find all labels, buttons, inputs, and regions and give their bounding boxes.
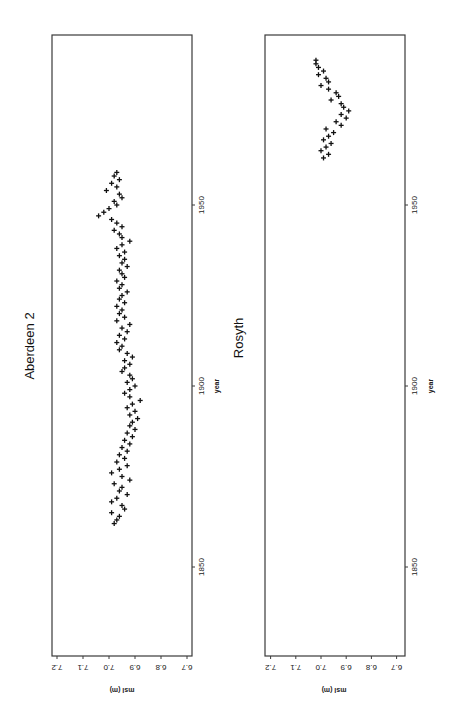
plus-marker-icon <box>117 253 122 258</box>
plus-marker-icon <box>127 394 132 399</box>
msl-tick-label: 7.0 <box>315 663 327 672</box>
plus-marker-icon <box>120 282 125 287</box>
plus-marker-icon <box>101 210 106 215</box>
plus-marker-icon <box>122 438 127 443</box>
plus-marker-icon <box>339 112 344 117</box>
year-tick-label: 1900 <box>410 377 419 395</box>
plus-marker-icon <box>120 260 125 265</box>
plus-marker-icon <box>114 340 119 345</box>
plus-marker-icon <box>117 192 122 197</box>
plus-marker-icon <box>96 213 101 218</box>
plus-marker-icon <box>109 181 114 186</box>
aberdeen-year-axis: 185019001950 <box>192 196 206 576</box>
plus-marker-icon <box>138 398 143 403</box>
plus-marker-icon <box>114 460 119 465</box>
plus-marker-icon <box>112 228 117 233</box>
aberdeen-x-axis-label: year <box>213 379 221 394</box>
chart-canvas: 185019001950 7.27.17.06.96.86.7 year msl… <box>0 0 464 722</box>
msl-tick-label: 7.1 <box>77 663 89 672</box>
plus-marker-icon <box>117 286 122 291</box>
plus-marker-icon <box>114 203 119 208</box>
plus-marker-icon <box>114 246 119 251</box>
aberdeen-y-axis-label: msl (m) <box>110 686 135 694</box>
plus-marker-icon <box>117 311 122 316</box>
plus-marker-icon <box>346 108 351 113</box>
plus-marker-icon <box>125 351 130 356</box>
msl-tick-label: 6.9 <box>129 663 141 672</box>
plus-marker-icon <box>321 69 326 74</box>
plus-marker-icon <box>117 231 122 236</box>
plus-marker-icon <box>122 358 127 363</box>
plus-marker-icon <box>122 365 127 370</box>
plus-marker-icon <box>319 83 324 88</box>
plus-marker-icon <box>127 423 132 428</box>
msl-tick-label: 7.2 <box>51 663 63 672</box>
plus-marker-icon <box>112 174 117 179</box>
plus-marker-icon <box>334 119 339 124</box>
plus-marker-icon <box>319 148 324 153</box>
plus-marker-icon <box>324 145 329 150</box>
msl-tick-label: 7.0 <box>103 663 115 672</box>
rosyth-msl-axis: 7.27.17.06.96.86.7 <box>264 656 402 672</box>
rosyth-plot-frame <box>265 35 405 656</box>
aberdeen-data-points <box>96 170 143 526</box>
plus-marker-icon <box>341 105 346 110</box>
msl-tick-label: 6.8 <box>155 663 167 672</box>
plus-marker-icon <box>112 521 117 526</box>
plus-marker-icon <box>109 217 114 222</box>
plus-marker-icon <box>120 344 125 349</box>
plus-marker-icon <box>125 329 130 334</box>
plus-marker-icon <box>125 492 130 497</box>
plus-marker-icon <box>114 496 119 501</box>
plus-marker-icon <box>133 427 138 432</box>
plus-marker-icon <box>114 304 119 309</box>
plus-marker-icon <box>133 384 138 389</box>
plus-marker-icon <box>130 420 135 425</box>
plus-marker-icon <box>133 409 138 414</box>
plus-marker-icon <box>104 188 109 193</box>
plus-marker-icon <box>117 452 122 457</box>
plus-marker-icon <box>117 177 122 182</box>
rosyth-y-axis-label: msl (m) <box>322 686 347 694</box>
plus-marker-icon <box>127 362 132 367</box>
plus-marker-icon <box>127 322 132 327</box>
plus-marker-icon <box>326 87 331 92</box>
plus-marker-icon <box>122 456 127 461</box>
plus-marker-icon <box>120 235 125 240</box>
rosyth-title: Rosyth <box>231 318 246 358</box>
plus-marker-icon <box>114 170 119 175</box>
plus-marker-icon <box>130 376 135 381</box>
plus-marker-icon <box>114 221 119 226</box>
plus-marker-icon <box>109 499 114 504</box>
plus-marker-icon <box>122 275 127 280</box>
aberdeen-title: Aberdeen 2 <box>22 312 37 379</box>
plus-marker-icon <box>122 336 127 341</box>
aberdeen-msl-axis: 7.27.17.06.96.86.7 <box>51 656 193 672</box>
plus-marker-icon <box>127 412 132 417</box>
plus-marker-icon <box>120 307 125 312</box>
msl-tick-label: 6.7 <box>181 663 193 672</box>
plus-marker-icon <box>122 507 127 512</box>
plus-marker-icon <box>125 449 130 454</box>
plus-marker-icon <box>339 123 344 128</box>
plus-marker-icon <box>120 474 125 479</box>
plus-marker-icon <box>326 134 331 139</box>
plus-marker-icon <box>127 387 132 392</box>
plus-marker-icon <box>112 199 117 204</box>
rosyth-panel: 185019001950 7.27.17.06.96.86.7 year msl… <box>231 35 435 694</box>
plus-marker-icon <box>329 98 334 103</box>
rosyth-x-axis-label: year <box>427 379 435 394</box>
plus-marker-icon <box>109 510 114 515</box>
plus-marker-icon <box>316 72 321 77</box>
plus-marker-icon <box>117 488 122 493</box>
msl-tick-label: 6.7 <box>390 663 402 672</box>
plus-marker-icon <box>117 268 122 273</box>
plus-marker-icon <box>339 101 344 106</box>
plus-marker-icon <box>120 369 125 374</box>
plus-marker-icon <box>109 470 114 475</box>
plus-marker-icon <box>120 271 125 276</box>
plus-marker-icon <box>326 152 331 157</box>
plus-marker-icon <box>122 300 127 305</box>
plus-marker-icon <box>117 514 122 519</box>
msl-tick-label: 6.8 <box>365 663 377 672</box>
